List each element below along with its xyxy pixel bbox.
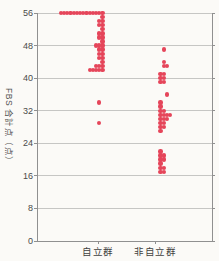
gridline-y-40 bbox=[38, 78, 212, 79]
y-tick-mark bbox=[212, 208, 215, 209]
y-tick-mark bbox=[212, 78, 215, 79]
y-tick-label-32: 32 bbox=[0, 106, 33, 116]
y-tick-mark bbox=[34, 208, 38, 209]
y-tick-mark bbox=[34, 175, 38, 176]
y-tick-mark bbox=[34, 78, 38, 79]
x-tick-mark-1 bbox=[155, 241, 156, 244]
y-tick-label-24: 24 bbox=[0, 138, 33, 148]
y-tick-mark bbox=[212, 241, 215, 242]
y-tick-mark bbox=[212, 13, 215, 14]
data-dot-非自立群-47 bbox=[162, 47, 166, 51]
gridline-y-8 bbox=[38, 208, 212, 209]
data-dot-非自立群-17 bbox=[162, 170, 166, 174]
plot-area bbox=[37, 13, 213, 242]
y-tick-mark bbox=[212, 143, 215, 144]
category-label-1: 非自立群 bbox=[120, 246, 190, 257]
gridline-y-16 bbox=[38, 175, 212, 176]
data-dot-自立群-42 bbox=[88, 68, 92, 72]
y-tick-mark bbox=[34, 143, 38, 144]
x-tick-mark-0 bbox=[98, 241, 99, 244]
y-tick-label-8: 8 bbox=[0, 203, 33, 213]
y-tick-label-40: 40 bbox=[0, 73, 33, 83]
data-dot-自立群-29 bbox=[97, 121, 101, 125]
data-dot-自立群-34 bbox=[97, 100, 101, 104]
y-tick-label-0: 0 bbox=[0, 236, 33, 246]
gridline-y-48 bbox=[38, 45, 212, 46]
gridline-y-32 bbox=[38, 110, 212, 111]
data-dot-非自立群-31 bbox=[168, 113, 172, 117]
y-tick-label-56: 56 bbox=[0, 8, 33, 18]
data-dot-非自立群-27 bbox=[158, 129, 162, 133]
figure: FBS 合計点（点） 08162432404856自立群非自立群 bbox=[0, 0, 219, 261]
y-tick-mark bbox=[34, 110, 38, 111]
y-tick-mark bbox=[34, 13, 38, 14]
data-dot-非自立群-43 bbox=[165, 64, 169, 68]
y-tick-label-16: 16 bbox=[0, 171, 33, 181]
y-tick-label-48: 48 bbox=[0, 41, 33, 51]
y-tick-mark bbox=[212, 110, 215, 111]
gridline-y-24 bbox=[38, 143, 212, 144]
y-tick-mark bbox=[34, 45, 38, 46]
data-dot-非自立群-36 bbox=[165, 92, 169, 96]
y-tick-mark bbox=[212, 45, 215, 46]
y-tick-mark bbox=[212, 175, 215, 176]
y-tick-mark bbox=[34, 241, 38, 242]
data-dot-非自立群-39 bbox=[162, 80, 166, 84]
data-dot-非自立群-30 bbox=[165, 117, 169, 121]
